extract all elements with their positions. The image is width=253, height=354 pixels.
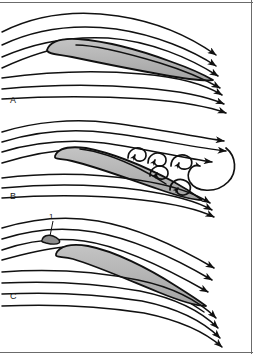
panel-label-a: A xyxy=(10,95,16,105)
airfoil-flow-figure: A xyxy=(0,0,253,354)
figure-canvas: A xyxy=(0,0,253,354)
panel-label-b: B xyxy=(10,191,16,201)
panel-label-c: C xyxy=(10,291,17,301)
callout-label-1: 1 xyxy=(49,212,54,221)
